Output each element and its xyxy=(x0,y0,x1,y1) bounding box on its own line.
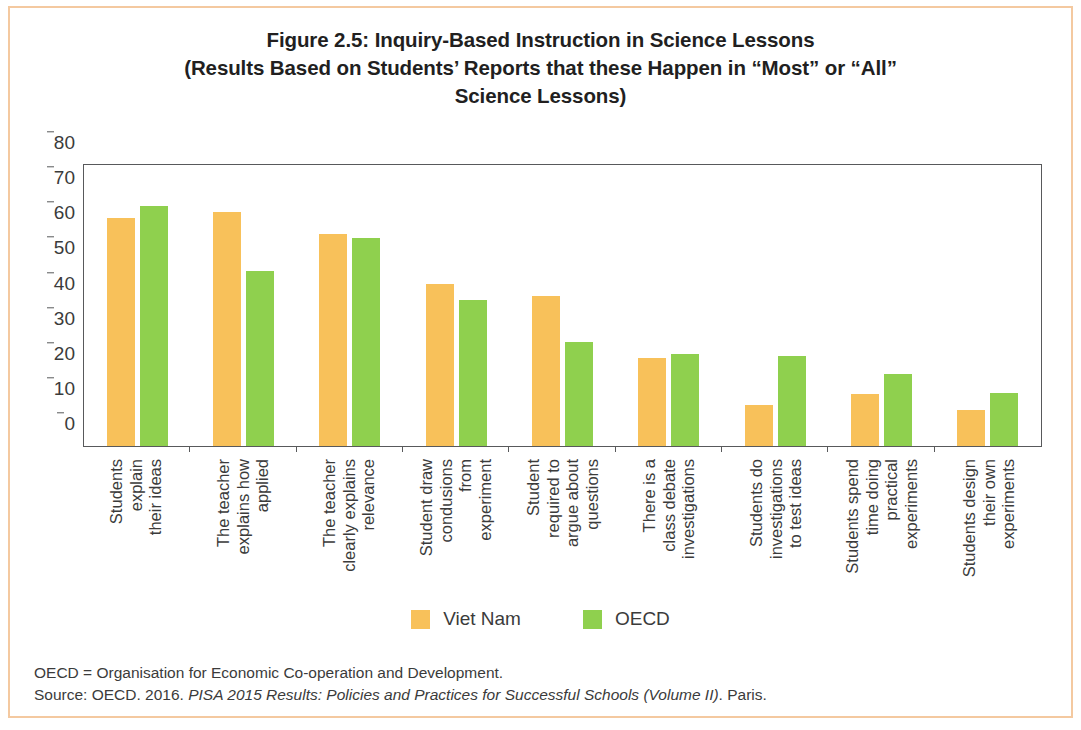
y-axis-tick-label: 20 xyxy=(54,343,75,365)
x-axis-group-separator xyxy=(934,446,935,452)
figure-page: Figure 2.5: Inquiry-Based Instruction in… xyxy=(0,0,1081,730)
bar-group xyxy=(935,165,1041,446)
x-axis-label-cell: There is aclass debateinvestigations xyxy=(616,453,723,618)
x-axis-label-line: required to xyxy=(543,459,563,547)
x-axis-label-line: The teacher xyxy=(320,459,340,572)
y-axis-tick-mark xyxy=(47,342,54,343)
bar-group xyxy=(403,165,509,446)
x-axis-label-line: The teacher xyxy=(214,459,234,554)
bar-group xyxy=(297,165,403,446)
x-axis-label-cell: Students designtheir ownexperiments xyxy=(936,453,1043,618)
y-axis-tick-label: 0 xyxy=(64,413,75,435)
y-axis-tick-label: 40 xyxy=(54,273,75,295)
bar-oecd xyxy=(246,271,274,446)
x-axis-label-line: investigations xyxy=(766,459,786,559)
bar-vietnam xyxy=(213,212,241,446)
note-source-suffix: . Paris. xyxy=(719,686,767,703)
y-axis-tick-mark xyxy=(47,272,54,273)
x-axis-label-cell: Students doinvestigationsto test ideas xyxy=(722,453,829,618)
x-axis-label-line: Students do xyxy=(746,459,766,559)
figure-title-line-3: Science Lessons) xyxy=(70,82,1011,110)
y-axis-tick-label: 60 xyxy=(54,202,75,224)
y-axis-tick-mark xyxy=(47,307,54,308)
legend-label-oecd: OECD xyxy=(615,608,670,630)
note-source-title: PISA 2015 Results: Policies and Practice… xyxy=(188,686,718,703)
bar-vietnam xyxy=(851,394,879,446)
x-axis-label: Students doinvestigationsto test ideas xyxy=(746,459,805,559)
x-axis-label-line: practical xyxy=(882,459,902,574)
legend-item-vietnam: Viet Nam xyxy=(411,608,521,630)
x-axis-group-separator xyxy=(402,446,403,452)
x-axis-label-line: Students xyxy=(107,459,127,535)
x-axis-group-separator xyxy=(508,446,509,452)
y-axis-tick-mark xyxy=(47,166,54,167)
chart-legend: Viet Nam OECD xyxy=(0,608,1081,630)
bar-group xyxy=(509,165,615,446)
bar-oecd xyxy=(565,342,593,446)
bar-oecd xyxy=(671,354,699,446)
x-axis-label: Studentsexplaintheir ideas xyxy=(107,459,166,535)
y-axis-tick-label: 70 xyxy=(54,167,75,189)
x-axis-label-line: experiments xyxy=(999,459,1019,577)
note-source-prefix: Source: OECD. 2016. xyxy=(34,686,188,703)
bar-oecd xyxy=(778,356,806,446)
figure-title-line-2: (Results Based on Students’ Reports that… xyxy=(70,54,1011,82)
y-axis-tick-mark xyxy=(47,237,54,238)
y-axis-tick-mark xyxy=(47,131,54,132)
x-axis-label-line: to test ideas xyxy=(785,459,805,559)
x-axis-group-separator xyxy=(721,446,722,452)
x-axis-group-separator xyxy=(296,446,297,452)
x-axis-label-line: Student draw xyxy=(417,459,437,556)
note-source: Source: OECD. 2016. PISA 2015 Results: P… xyxy=(34,684,1051,706)
x-axis-label-line: clearly explains xyxy=(340,459,360,572)
y-axis-tick-label: 50 xyxy=(54,237,75,259)
x-axis-label-line: experiment xyxy=(475,459,495,556)
y-axis-tick-mark xyxy=(57,412,64,413)
x-axis-label-cell: Student drawcondusionsfromexperiment xyxy=(403,453,510,618)
x-axis-group-separator xyxy=(615,446,616,452)
bar-group xyxy=(722,165,828,446)
bar-vietnam xyxy=(107,218,135,446)
bar-group xyxy=(190,165,296,446)
x-axis-label: Student drawcondusionsfromexperiment xyxy=(417,459,495,556)
x-axis-label-line: Students design xyxy=(960,459,980,577)
x-axis-label-line: their own xyxy=(979,459,999,577)
y-axis-tick-mark xyxy=(47,377,54,378)
y-axis-tick-label: 80 xyxy=(54,132,75,154)
figure-title-line-1: Figure 2.5: Inquiry-Based Instruction in… xyxy=(70,26,1011,54)
plot-area: 01020304050607080 xyxy=(83,164,1042,447)
bar-oecd xyxy=(140,206,168,446)
chart-container: 01020304050607080 Studentsexplaintheir i… xyxy=(28,150,1050,460)
y-axis-tick-label: 10 xyxy=(54,378,75,400)
bar-vietnam xyxy=(319,234,347,447)
x-axis-labels: Studentsexplaintheir ideasThe teacherexp… xyxy=(83,453,1042,618)
x-axis-label-line: class debate xyxy=(659,459,679,559)
bar-oecd xyxy=(459,300,487,446)
y-axis-tick-mark xyxy=(47,202,54,203)
x-axis-label-line: explains how xyxy=(233,459,253,554)
x-axis-label-line: experiments xyxy=(902,459,922,574)
bar-oecd xyxy=(990,393,1018,446)
x-axis-label-line: relevance xyxy=(359,459,379,572)
bar-vietnam xyxy=(426,284,454,446)
x-axis-label-line: condusions xyxy=(436,459,456,556)
legend-swatch-oecd-icon xyxy=(583,610,602,629)
bar-group xyxy=(616,165,722,446)
x-axis-label-line: investigations xyxy=(679,459,699,559)
x-axis-label-cell: The teacherexplains howapplied xyxy=(190,453,297,618)
x-axis-label-line: applied xyxy=(253,459,273,554)
x-axis-label-cell: Students spendtime doingpracticalexperim… xyxy=(829,453,936,618)
x-axis-label: Students designtheir ownexperiments xyxy=(960,459,1019,577)
note-abbreviation: OECD = Organisation for Economic Co-oper… xyxy=(34,662,1051,684)
bar-group xyxy=(828,165,934,446)
x-axis-label-line: from xyxy=(456,459,476,556)
bar-vietnam xyxy=(532,296,560,446)
x-axis-label-line: explain xyxy=(127,459,147,535)
x-axis-label-line: their ideas xyxy=(146,459,166,535)
x-axis-label: The teacherexplains howapplied xyxy=(214,459,273,554)
x-axis-group-separator xyxy=(189,446,190,452)
legend-item-oecd: OECD xyxy=(583,608,670,630)
figure-title: Figure 2.5: Inquiry-Based Instruction in… xyxy=(70,26,1011,110)
bar-group xyxy=(84,165,190,446)
x-axis-group-separator xyxy=(827,446,828,452)
